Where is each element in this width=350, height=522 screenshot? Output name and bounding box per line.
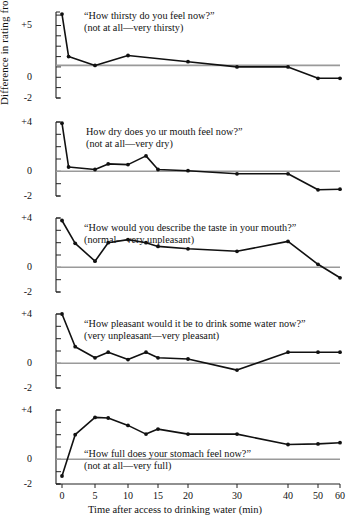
figure-multi-panel-line-chart: Difference in rating from predeprivation… bbox=[0, 0, 350, 522]
x-tick-label: 40 bbox=[276, 490, 300, 501]
x-tick-label: 60 bbox=[328, 490, 350, 501]
x-tick-label: 5 bbox=[83, 490, 107, 501]
x-axis-label: Time after access to drinking water (min… bbox=[0, 504, 350, 515]
x-tick-label: 10 bbox=[116, 490, 140, 501]
x-tick-label: 0 bbox=[50, 490, 74, 501]
x-tick-label: 15 bbox=[146, 490, 170, 501]
x-tick-label: 20 bbox=[176, 490, 200, 501]
x-tick-label: 50 bbox=[306, 490, 330, 501]
x-tick-label: 30 bbox=[225, 490, 249, 501]
x-axis-svg bbox=[0, 0, 350, 522]
